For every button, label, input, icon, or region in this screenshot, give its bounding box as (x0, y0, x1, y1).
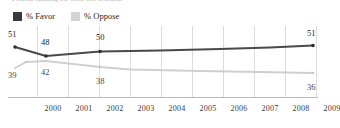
series-line-favor (15, 46, 313, 57)
chart-legend: % Favor % Oppose (13, 10, 119, 22)
plot-area: 51 48 50 51 39 42 38 36 (0, 26, 326, 100)
legend-swatch-oppose (71, 12, 80, 21)
x-axis: 2000 2001 2002 2003 2004 2005 2006 2007 … (0, 104, 326, 118)
x-tick-2007: 2007 (262, 104, 279, 113)
x-tick-2001: 2001 (76, 104, 93, 113)
value-label-oppose-peak: 42 (41, 68, 50, 77)
x-tick-2006: 2006 (231, 104, 248, 113)
x-tick-2002: 2002 (107, 104, 124, 113)
gridlines (38, 26, 317, 97)
legend-swatch-favor (13, 12, 22, 21)
legend-item-favor[interactable]: % Favor (13, 12, 55, 21)
legend-label-favor: % Favor (26, 12, 55, 21)
value-label-favor-mid: 50 (96, 33, 105, 42)
legend-label-oppose: % Oppose (84, 12, 119, 21)
chart-title: Federal funding for stem cell research (12, 0, 122, 2)
value-label-favor-dip: 48 (41, 38, 50, 47)
value-label-oppose-end: 36 (307, 83, 316, 92)
x-tick-2003: 2003 (138, 104, 155, 113)
value-label-favor-end: 51 (307, 29, 316, 38)
value-label-favor-start: 51 (8, 30, 17, 39)
legend-item-oppose[interactable]: % Oppose (71, 12, 119, 21)
value-label-oppose-mid: 38 (96, 77, 105, 86)
value-label-oppose-start: 39 (8, 71, 17, 80)
x-tick-2000: 2000 (45, 104, 62, 113)
series-line-oppose (15, 61, 313, 73)
x-tick-2009: 2009 (324, 104, 340, 113)
x-tick-2005: 2005 (200, 104, 217, 113)
x-tick-2008: 2008 (293, 104, 310, 113)
x-tick-2004: 2004 (169, 104, 186, 113)
